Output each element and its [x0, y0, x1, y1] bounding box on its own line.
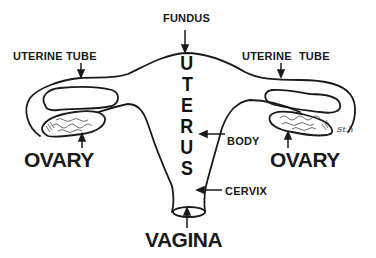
- ovary-right-label: OVARY: [270, 149, 340, 170]
- artist-signature: St.h: [337, 125, 353, 134]
- cervix-label: CERVIX: [225, 186, 267, 197]
- left-tube-loop: [43, 87, 118, 110]
- uterus-letter: R: [181, 115, 194, 136]
- uterus-letter: E: [181, 94, 193, 115]
- uterus-vertical-label: U T E R U S: [176, 52, 198, 178]
- uterine-tube-left-label: UTERINE TUBE: [13, 51, 97, 62]
- uterus-letter: T: [182, 73, 193, 94]
- uterus-letter: S: [181, 157, 193, 178]
- uterine-tube-right-label: UTERINE TUBE: [242, 51, 330, 62]
- ovary-left-label: OVARY: [24, 149, 94, 170]
- body-label: BODY: [227, 136, 260, 147]
- right-ovary-outline: [270, 112, 333, 136]
- fundus-label: FUNDUS: [163, 13, 210, 24]
- uterus-letter: U: [181, 136, 194, 157]
- left-tube-lower-edge: [98, 104, 174, 212]
- right-tube-loop: [265, 90, 340, 113]
- uterus-letter: U: [181, 52, 194, 73]
- vagina-label: VAGINA: [145, 229, 222, 250]
